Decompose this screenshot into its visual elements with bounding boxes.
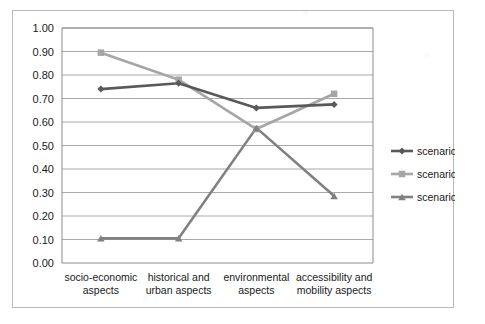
chart-frame: 0.000.100.200.300.400.500.600.700.800.90… bbox=[12, 10, 454, 308]
series-line bbox=[101, 128, 334, 238]
y-axis-tick-label: 0.80 bbox=[33, 69, 54, 81]
legend-item-label: scenario 2 bbox=[417, 168, 455, 180]
y-axis-tick-labels: 0.000.100.200.300.400.500.600.700.800.90… bbox=[33, 22, 54, 269]
y-axis-tick-label: 0.30 bbox=[33, 187, 54, 199]
y-axis-tick-label: 0.70 bbox=[33, 93, 54, 105]
data-point-marker-diamond bbox=[97, 86, 104, 93]
x-axis-category-label: historical and bbox=[148, 271, 210, 283]
data-point-marker-square bbox=[98, 49, 105, 56]
y-axis-tick-label: 0.40 bbox=[33, 163, 54, 175]
y-axis-tick-label: 0.00 bbox=[33, 257, 54, 269]
data-point-marker-diamond bbox=[253, 104, 260, 111]
x-axis-category-label: aspects bbox=[238, 284, 274, 296]
y-axis-tick-label: 0.90 bbox=[33, 46, 54, 58]
x-axis-category-labels: socio-economicaspectshistorical andurban… bbox=[64, 271, 372, 296]
legend-item-label: scenario 1 bbox=[417, 145, 455, 157]
legend-item-label: scenario 3 bbox=[417, 191, 455, 203]
data-point-marker-square bbox=[331, 91, 338, 98]
x-axis-category-label: urban aspects bbox=[146, 284, 212, 296]
y-axis-tick-label: 1.00 bbox=[33, 22, 54, 34]
legend: scenario 1scenario 2scenario 3 bbox=[391, 145, 455, 203]
x-axis-category-label: socio-economic bbox=[64, 271, 137, 283]
gridlines-group bbox=[62, 28, 373, 240]
data-point-marker-square bbox=[399, 171, 406, 178]
x-axis-category-label: aspects bbox=[83, 284, 119, 296]
data-point-marker-diamond bbox=[331, 101, 338, 108]
x-axis-category-label: mobility aspects bbox=[297, 284, 372, 296]
line-chart: 0.000.100.200.300.400.500.600.700.800.90… bbox=[13, 11, 455, 309]
x-axis-category-label: accessibility and bbox=[296, 271, 373, 283]
y-axis-tick-label: 0.20 bbox=[33, 210, 54, 222]
series-line bbox=[101, 53, 334, 129]
data-point-marker-diamond bbox=[399, 148, 406, 155]
x-axis-category-label: environmental bbox=[223, 271, 289, 283]
y-axis-tick-label: 0.10 bbox=[33, 234, 54, 246]
y-axis-tick-label: 0.50 bbox=[33, 140, 54, 152]
y-axis-tick-label: 0.60 bbox=[33, 116, 54, 128]
